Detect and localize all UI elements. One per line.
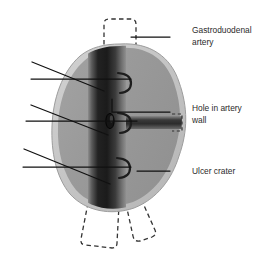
label-gastroduodenal-artery: Gastroduodenal artery <box>192 25 254 47</box>
label-ulcer-crater-line-1: Ulcer crater <box>192 166 235 176</box>
label-gastroduodenal-artery-line-2: artery <box>192 37 214 47</box>
label-gastroduodenal-artery-line-1: Gastroduodenal <box>192 25 252 35</box>
anatomical-figure: Gastroduodenal artery Hole in artery wal… <box>0 0 277 270</box>
diagram-canvas: Gastroduodenal artery Hole in artery wal… <box>0 0 277 270</box>
label-hole-in-artery-wall-line-1: Hole in artery <box>192 103 243 113</box>
gastroduodenal-artery-trunk <box>88 40 126 215</box>
label-hole-in-artery-wall-line-2: wall <box>191 115 207 125</box>
artery-side-branch <box>118 116 184 129</box>
label-hole-in-artery-wall: Hole in artery wall <box>191 103 244 125</box>
label-ulcer-crater: Ulcer crater <box>192 166 235 176</box>
